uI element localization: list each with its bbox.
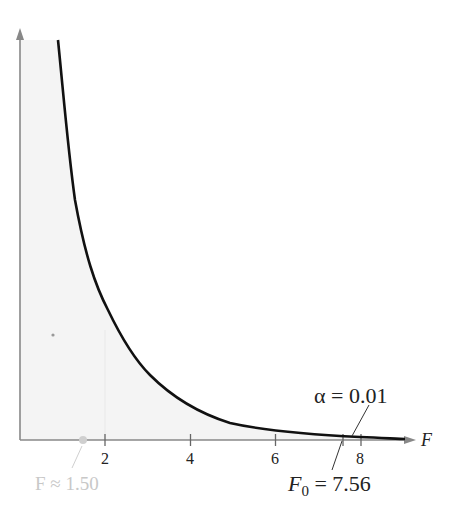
alpha-leader-line bbox=[352, 405, 369, 436]
y-axis-arrow-icon bbox=[16, 28, 24, 40]
scan-speck bbox=[51, 333, 54, 336]
x-axis-arrow-icon bbox=[404, 436, 416, 444]
f0-leader-line bbox=[332, 441, 342, 470]
test-stat-dot bbox=[79, 436, 87, 444]
critical-value-text: = 7.56 bbox=[309, 471, 371, 496]
shaded-region bbox=[20, 40, 405, 440]
test-statistic-label: F ≈ 1.50 bbox=[35, 473, 99, 495]
x-tick-label-4: 4 bbox=[186, 450, 194, 468]
x-tick-label-8: 8 bbox=[356, 450, 364, 468]
critical-value-sub: 0 bbox=[301, 483, 309, 499]
alpha-label: α = 0.01 bbox=[314, 383, 387, 409]
critical-value-label: F0 = 7.56 bbox=[288, 471, 371, 500]
test-stat-leader-line bbox=[72, 446, 82, 468]
x-tick-label-6: 6 bbox=[271, 450, 279, 468]
x-axis-label: F bbox=[421, 430, 432, 451]
critical-value-var: F bbox=[288, 471, 301, 496]
f-distribution-chart bbox=[0, 0, 456, 530]
x-tick-label-2: 2 bbox=[101, 450, 109, 468]
